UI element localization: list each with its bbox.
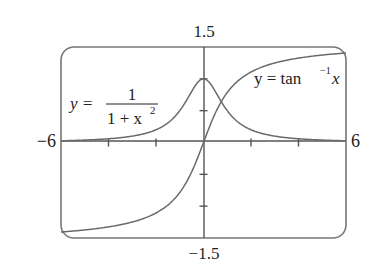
arctan-lhs: y = tan	[254, 69, 302, 88]
chart: 1.5 −1.5 −6 6 y = 1 1 + x 2 y = tan −1 x	[0, 0, 381, 273]
x-max-label: 6	[351, 131, 360, 151]
arctan-var: x	[331, 69, 340, 88]
reciprocal-exponent: 2	[150, 104, 156, 116]
reciprocal-denominator: 1 + x	[107, 109, 143, 128]
y-min-label: −1.5	[189, 244, 220, 263]
arctan-label: y = tan −1 x	[254, 65, 340, 88]
y-max-label: 1.5	[193, 22, 214, 41]
reciprocal-numerator: 1	[128, 85, 137, 104]
reciprocal-lhs: y =	[68, 94, 93, 113]
arctan-superscript: −1	[320, 65, 331, 76]
x-min-label: −6	[37, 131, 56, 151]
reciprocal-label: y = 1 1 + x 2	[68, 85, 158, 128]
